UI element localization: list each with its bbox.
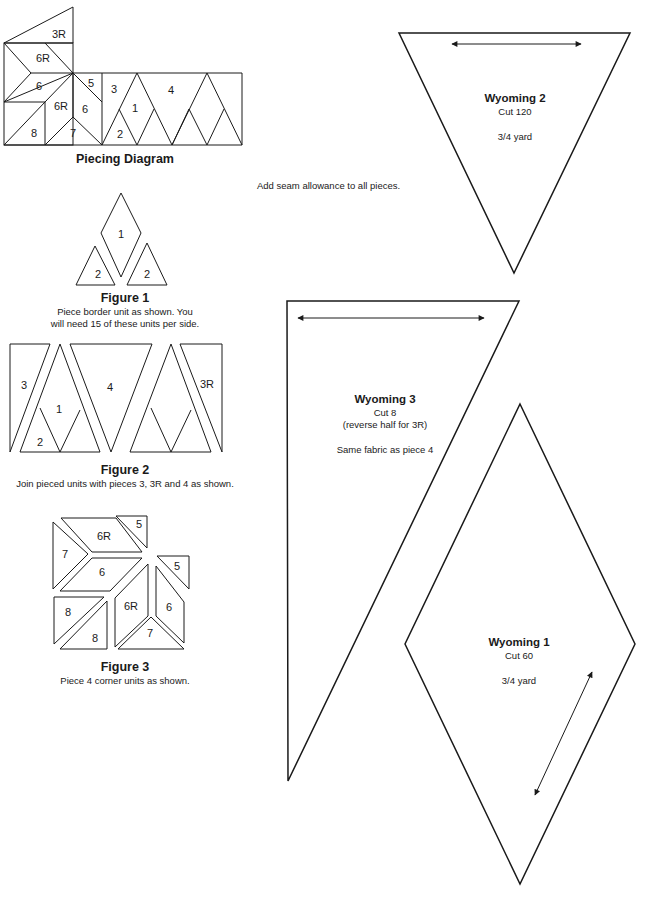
wyoming2-yardage: 3/4 yard xyxy=(460,131,570,143)
piece-label: 5 xyxy=(136,518,142,530)
figure3-text: Piece 4 corner units as shown. xyxy=(20,675,230,687)
piece-label: 4 xyxy=(168,84,174,96)
piece-label: 4 xyxy=(107,381,113,393)
figure3-diagram xyxy=(53,516,189,649)
piece-label: 1 xyxy=(132,102,138,114)
piece-label: 1 xyxy=(56,403,62,415)
piece-label: 5 xyxy=(174,560,180,572)
piecing-diagram-caption: Piecing Diagram xyxy=(60,152,190,166)
template-wyoming3 xyxy=(287,301,519,781)
piece-label: 2 xyxy=(37,436,43,448)
piece-label: 6R xyxy=(124,600,138,612)
piece-label: 7 xyxy=(147,627,153,639)
wyoming3-fabric-note: Same fabric as piece 4 xyxy=(310,444,460,456)
piece-label: 5 xyxy=(88,77,94,89)
piece-label: 6 xyxy=(36,80,42,92)
piece-label: 6R xyxy=(36,52,50,64)
figure3-title: Figure 3 xyxy=(60,660,190,674)
figure2-title: Figure 2 xyxy=(60,463,190,477)
figure1-title: Figure 1 xyxy=(60,291,190,305)
piece-label: 6 xyxy=(82,103,88,115)
piece-label: 3R xyxy=(52,28,66,40)
piece-label: 3R xyxy=(200,378,214,390)
piece-label: 3 xyxy=(21,379,27,391)
wyoming3-cut: Cut 8 xyxy=(320,407,450,419)
piece-label: 2 xyxy=(95,268,101,280)
wyoming3-name: Wyoming 3 xyxy=(320,393,450,405)
piece-label: 8 xyxy=(65,606,71,618)
piece-label: 7 xyxy=(70,127,76,139)
piece-label: 7 xyxy=(62,548,68,560)
seam-allowance-note: Add seam allowance to all pieces. xyxy=(257,180,400,191)
wyoming2-name: Wyoming 2 xyxy=(460,92,570,104)
piece-label: 8 xyxy=(92,632,98,644)
piecing-diagram xyxy=(4,7,242,145)
figure1-text-line2: will need 15 of these units per side. xyxy=(20,318,230,330)
piece-label: 3 xyxy=(111,83,117,95)
template-wyoming2 xyxy=(399,33,630,273)
figure1-text-line1: Piece border unit as shown. You xyxy=(20,306,230,318)
piece-label: 1 xyxy=(118,228,124,240)
wyoming3-reverse-note: (reverse half for 3R) xyxy=(320,419,450,431)
wyoming1-name: Wyoming 1 xyxy=(459,636,579,648)
piece-label: 6 xyxy=(99,566,105,578)
piece-label: 8 xyxy=(31,127,37,139)
figure2-text: Join pieced units with pieces 3, 3R and … xyxy=(0,478,250,490)
piece-label: 6 xyxy=(166,601,172,613)
wyoming1-yardage: 3/4 yard xyxy=(459,675,579,687)
piece-label: 6R xyxy=(54,100,68,112)
piece-label: 6R xyxy=(97,530,111,542)
wyoming1-cut: Cut 60 xyxy=(459,650,579,662)
wyoming2-cut: Cut 120 xyxy=(460,106,570,118)
piece-label: 2 xyxy=(144,268,150,280)
piece-label: 2 xyxy=(117,128,123,140)
